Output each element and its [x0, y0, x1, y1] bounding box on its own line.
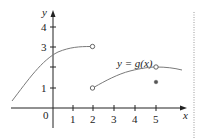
- filled-point-marker: [154, 80, 158, 84]
- x-tick-label: 5: [153, 113, 159, 125]
- open-start-marker: [90, 86, 94, 90]
- x-axis-label: x: [182, 109, 188, 121]
- graph-canvas: 1 2 3 4 5 1 3 4 0 x y y = g(x): [0, 0, 198, 139]
- y-tick-label: 4: [41, 21, 47, 33]
- right-branch-curve: [95, 67, 183, 87]
- origin-label: 0: [43, 109, 49, 121]
- open-hole-marker: [154, 65, 158, 69]
- open-endpoint-marker: [90, 44, 94, 48]
- left-branch-curve: [12, 47, 90, 102]
- y-tick-label: 3: [41, 41, 47, 53]
- y-axis-arrow-icon: [51, 10, 56, 17]
- y-axis-label: y: [41, 6, 47, 18]
- x-tick-label: 1: [70, 113, 76, 125]
- x-tick-label: 2: [90, 113, 96, 125]
- x-tick-label: 3: [111, 113, 117, 125]
- y-tick-label: 1: [41, 82, 47, 94]
- x-tick-label: 4: [132, 113, 138, 125]
